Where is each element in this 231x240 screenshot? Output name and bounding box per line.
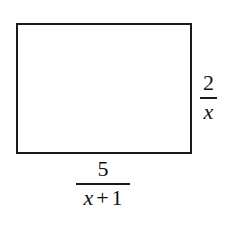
height-label: 2 x [200,72,217,123]
denominator-constant: 1 [112,185,123,210]
width-denominator: x+1 [83,187,122,209]
height-denominator: x [204,101,214,123]
denominator-variable: x [83,185,93,210]
plus-operator: + [93,185,111,210]
width-label: 5 x+1 [76,158,130,209]
height-numerator: 2 [203,72,214,94]
width-numerator: 5 [98,158,109,180]
rectangle-shape [16,23,192,154]
